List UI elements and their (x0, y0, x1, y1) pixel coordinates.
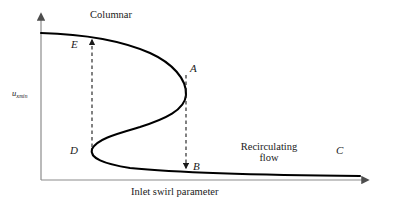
point-label-a: A (190, 63, 197, 75)
region-label-recirculating-flow-line1: Recirculating (228, 141, 310, 152)
plot-canvas (0, 0, 393, 207)
y-axis-label: uxmin (12, 89, 27, 98)
x-axis-label: Inlet swirl parameter (131, 186, 218, 197)
bifurcation-diagram-figure: Columnar Recirculating flow E A D B C In… (0, 0, 393, 207)
region-label-columnar: Columnar (78, 9, 144, 20)
y-axis-label-sub2: min (19, 93, 27, 99)
point-label-b: B (193, 161, 200, 173)
region-label-recirculating-flow-line2: flow (228, 152, 310, 163)
point-label-e: E (71, 39, 78, 51)
point-label-d: D (70, 145, 78, 157)
point-label-c: C (336, 145, 343, 157)
hysteresis-s-curve (41, 33, 360, 176)
